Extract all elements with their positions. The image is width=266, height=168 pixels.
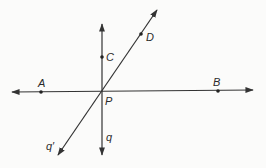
point-b-label: B	[213, 76, 220, 88]
point-d-label: D	[146, 31, 154, 43]
point-c	[100, 55, 104, 59]
point-p-label: P	[105, 95, 113, 107]
point-a	[39, 90, 43, 94]
geometry-diagram: qq′ABCDP	[0, 0, 266, 168]
diagram-svg: qq′ABCDP	[0, 0, 266, 168]
line-q-prime-label: q′	[46, 140, 55, 152]
line-q-label: q	[106, 131, 113, 143]
point-b	[216, 89, 220, 93]
point-c-label: C	[106, 51, 114, 63]
point-a-label: A	[37, 77, 45, 89]
point-d	[139, 32, 143, 36]
